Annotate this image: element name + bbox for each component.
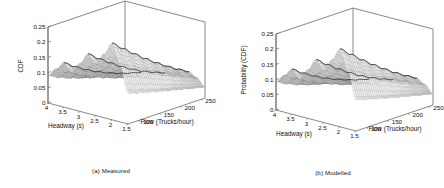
- svg-text:2.5: 2.5: [90, 117, 99, 124]
- svg-text:0.05: 0.05: [33, 84, 46, 91]
- surface-plot-measured: 00.050.10.150.20.25CDF43.532.521.5Headwa…: [0, 0, 222, 188]
- panel-caption-modelled: (b) Modelled: [222, 169, 444, 176]
- panel-measured: 00.050.10.150.20.25CDF43.532.521.5Headwa…: [0, 0, 222, 188]
- svg-text:0.15: 0.15: [33, 54, 46, 61]
- svg-text:250: 250: [205, 97, 216, 104]
- svg-text:0.15: 0.15: [261, 61, 274, 68]
- svg-text:1.5: 1.5: [350, 132, 359, 139]
- svg-text:0.1: 0.1: [265, 76, 274, 83]
- x-axis-label: Headway (s): [48, 122, 84, 130]
- svg-text:3.5: 3.5: [286, 115, 295, 122]
- svg-text:0.1: 0.1: [37, 69, 46, 76]
- figure-container: 00.050.10.150.20.25CDF43.532.521.5Headwa…: [0, 0, 444, 188]
- y-axis-label: Flow (Trucks/hour): [140, 118, 193, 126]
- z-axis-label: Probability (CDF): [240, 45, 248, 94]
- svg-text:0.25: 0.25: [261, 30, 274, 37]
- surface-mesh: [48, 43, 205, 94]
- x-axis-label: Headway (s): [276, 130, 312, 138]
- surface-plot-modelled: 00.050.10.150.20.25Probability (CDF)43.5…: [222, 0, 444, 188]
- svg-text:200: 200: [185, 104, 196, 111]
- svg-text:2: 2: [109, 121, 113, 128]
- y-axis-label: Flow (Trucks/hour): [368, 125, 421, 133]
- svg-text:4: 4: [273, 111, 277, 118]
- svg-text:3: 3: [305, 120, 309, 127]
- svg-text:3.5: 3.5: [58, 108, 67, 115]
- z-axis-label: CDF: [17, 59, 24, 72]
- svg-text:3: 3: [77, 113, 81, 120]
- svg-text:4: 4: [45, 104, 49, 111]
- svg-text:1.5: 1.5: [122, 125, 131, 132]
- svg-text:2: 2: [337, 128, 341, 135]
- svg-text:2.5: 2.5: [318, 124, 327, 131]
- panel-caption-measured: (a) Measured: [0, 167, 222, 174]
- svg-text:0.2: 0.2: [37, 38, 46, 45]
- svg-text:200: 200: [413, 111, 424, 118]
- svg-text:250: 250: [433, 104, 444, 111]
- svg-text:0.25: 0.25: [33, 23, 46, 30]
- svg-text:0.05: 0.05: [261, 91, 274, 98]
- panel-modelled: 00.050.10.150.20.25Probability (CDF)43.5…: [222, 0, 444, 188]
- svg-text:0.2: 0.2: [265, 45, 274, 52]
- surface-mesh: [276, 49, 433, 100]
